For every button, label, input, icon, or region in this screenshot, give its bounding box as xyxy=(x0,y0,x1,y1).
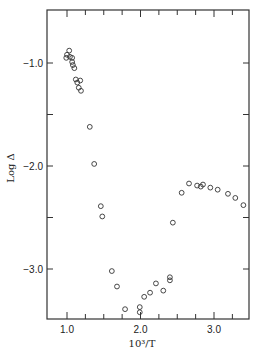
data-point xyxy=(142,294,147,299)
data-point xyxy=(137,310,142,315)
y-tick-label: −2.0 xyxy=(23,161,43,172)
data-point xyxy=(179,190,184,195)
data-point xyxy=(215,187,220,192)
x-tick-label: 1.0 xyxy=(60,324,74,335)
data-point xyxy=(161,288,166,293)
data-point xyxy=(154,281,159,286)
axis-ticks xyxy=(47,10,249,319)
data-point xyxy=(208,185,213,190)
data-point xyxy=(123,307,128,312)
data-point xyxy=(115,284,120,289)
data-point xyxy=(187,181,192,186)
x-tick-label: 3.0 xyxy=(207,324,221,335)
tick-labels: 1.02.03.0−1.0−2.0−3.0 xyxy=(23,58,221,335)
y-axis-label: Log Δ xyxy=(5,153,16,182)
data-point xyxy=(168,275,173,280)
data-point xyxy=(100,214,105,219)
data-point xyxy=(241,203,246,208)
y-tick-label: −1.0 xyxy=(23,58,43,69)
data-point xyxy=(109,269,114,274)
data-point xyxy=(137,305,142,310)
scatter-chart: 1.02.03.0−1.0−2.0−3.0 10³/T Log Δ xyxy=(0,0,257,355)
data-point xyxy=(148,290,153,295)
data-point xyxy=(98,204,103,209)
y-tick-label: −3.0 xyxy=(23,264,43,275)
data-point xyxy=(233,196,238,201)
data-point xyxy=(226,191,231,196)
data-points xyxy=(64,48,246,314)
data-point xyxy=(87,124,92,129)
x-tick-label: 2.0 xyxy=(134,324,148,335)
plot-frame xyxy=(47,10,249,319)
data-point xyxy=(92,162,97,167)
x-axis-label: 10³/T xyxy=(129,338,156,349)
data-point xyxy=(170,220,175,225)
